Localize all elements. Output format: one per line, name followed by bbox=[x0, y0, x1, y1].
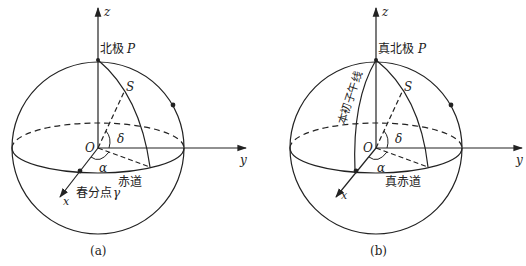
prime-meridian-label: 本初子午线 bbox=[335, 69, 365, 126]
pole-label: 北极 bbox=[100, 42, 124, 56]
pole-label: 真北极 bbox=[378, 42, 414, 56]
origin-label: O bbox=[85, 141, 95, 155]
origin-label: O bbox=[363, 141, 373, 155]
sphere-point bbox=[171, 103, 176, 108]
caption-a: (a) bbox=[90, 244, 107, 258]
equinox-label: 春分点 bbox=[76, 186, 112, 200]
delta-arc bbox=[106, 131, 110, 148]
star-label: S bbox=[404, 80, 412, 94]
z-axis-label: z bbox=[103, 5, 111, 19]
equinox-point bbox=[78, 169, 83, 174]
x-axis-label: x bbox=[341, 189, 348, 202]
equator-front bbox=[12, 148, 184, 173]
celestial-coordinate-diagram: z 北极 P S O δ α 赤道 春分点 γ x y (a) z 真北极 P … bbox=[0, 0, 526, 266]
equator-front bbox=[290, 148, 462, 173]
pole-point bbox=[374, 58, 378, 62]
z-axis-label: z bbox=[381, 5, 389, 19]
equator-label: 真赤道 bbox=[385, 175, 421, 189]
equator-label: 赤道 bbox=[118, 175, 142, 189]
right-ascension-label: α bbox=[99, 161, 107, 175]
star-label: S bbox=[126, 80, 134, 94]
pole-symbol: P bbox=[126, 42, 136, 56]
sphere-point bbox=[449, 103, 454, 108]
right-ascension-label: α bbox=[377, 161, 385, 175]
delta-arc bbox=[384, 131, 388, 148]
pole-symbol: P bbox=[417, 42, 427, 56]
pole-point bbox=[96, 58, 100, 62]
declination-label: δ bbox=[395, 132, 402, 146]
meridian-equator-point bbox=[354, 169, 359, 174]
y-axis-label: y bbox=[239, 153, 247, 167]
y-axis-label: y bbox=[515, 153, 523, 167]
x-axis-label: x bbox=[63, 195, 70, 208]
declination-label: δ bbox=[117, 132, 124, 146]
equinox-symbol: γ bbox=[113, 186, 121, 200]
caption-b: (b) bbox=[370, 244, 387, 258]
